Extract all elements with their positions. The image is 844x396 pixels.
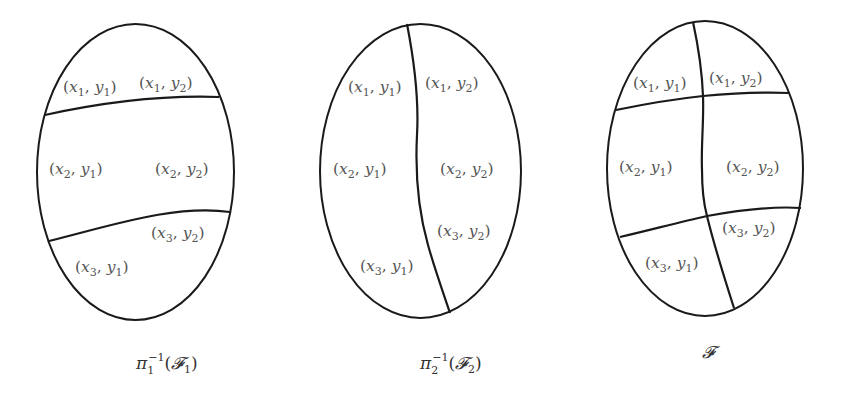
- panel-pi1-inverse-F1: (x1, y1) (x1, y2) (x2, y1) (x2, y2) (x3,…: [37, 24, 234, 377]
- panel-caption: π1−1(𝓕1): [135, 351, 198, 377]
- cell-label: (x3, y1): [645, 254, 699, 275]
- cell-label: (x2, y2): [155, 160, 209, 181]
- cell-label: (x1, y2): [139, 74, 193, 95]
- cell-label: (x3, y2): [437, 222, 491, 243]
- cell-label: (x2, y1): [333, 160, 387, 181]
- cell-label: (x2, y1): [619, 158, 673, 179]
- cell-label: (x2, y1): [49, 160, 103, 181]
- panel-pi2-inverse-F2: (x1, y1) (x1, y2) (x2, y1) (x2, y2) (x3,…: [320, 24, 521, 377]
- cell-label: (x1, y2): [425, 74, 479, 95]
- cell-label: (x3, y2): [722, 219, 776, 240]
- cell-label: (x3, y1): [75, 258, 129, 279]
- partition-curve-top: [45, 97, 219, 115]
- cell-label: (x1, y2): [709, 69, 763, 90]
- cell-label: (x2, y2): [440, 160, 494, 181]
- cell-label: (x2, y2): [726, 158, 780, 179]
- cell-label: (x3, y1): [360, 257, 414, 278]
- cell-label: (x3, y2): [151, 224, 205, 245]
- cell-label: (x1, y1): [63, 78, 117, 99]
- panel-caption: π2−1(𝓕2): [419, 351, 482, 377]
- cell-label: (x1, y1): [633, 74, 687, 95]
- panel-caption: 𝓕: [702, 342, 721, 362]
- panel-F: (x1, y1) (x1, y2) (x2, y1) (x2, y2) (x3,…: [607, 21, 803, 362]
- cell-label: (x1, y1): [348, 78, 402, 99]
- partition-diagram: (x1, y1) (x1, y2) (x2, y1) (x2, y2) (x3,…: [0, 0, 844, 396]
